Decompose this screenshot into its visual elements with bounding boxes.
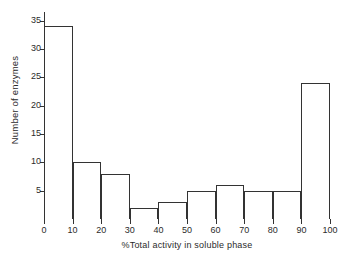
x-tick-label: 70 bbox=[239, 225, 249, 236]
x-tick-label: 50 bbox=[182, 225, 192, 236]
plot-area: 5101520253035 0102030405060708090100 bbox=[44, 12, 330, 219]
x-tick-label: 60 bbox=[211, 225, 221, 236]
y-axis-label: Number of enzymes bbox=[8, 0, 22, 210]
x-tick-mark bbox=[187, 219, 188, 224]
y-tick-label: 30 bbox=[31, 43, 41, 54]
histogram-bar bbox=[158, 202, 187, 219]
x-tick-label: 10 bbox=[68, 225, 78, 236]
y-tick-label: 5 bbox=[36, 185, 41, 196]
x-tick-label: 80 bbox=[268, 225, 278, 236]
y-tick-label: 20 bbox=[31, 100, 41, 111]
x-tick-mark bbox=[44, 219, 45, 224]
histogram-bar bbox=[187, 191, 216, 219]
x-tick-mark bbox=[101, 219, 102, 224]
histogram-bar bbox=[244, 191, 273, 219]
x-tick-mark bbox=[244, 219, 245, 224]
x-tick-label: 100 bbox=[322, 225, 337, 236]
x-tick-mark bbox=[273, 219, 274, 224]
x-tick-mark bbox=[301, 219, 302, 224]
x-tick-label: 20 bbox=[96, 225, 106, 236]
y-tick-label: 35 bbox=[31, 15, 41, 26]
y-tick-label: 25 bbox=[31, 71, 41, 82]
x-tick-mark bbox=[73, 219, 74, 224]
x-tick-label: 30 bbox=[125, 225, 135, 236]
histogram-bar bbox=[101, 174, 130, 219]
histogram-bar bbox=[73, 162, 102, 219]
histogram-bar bbox=[130, 208, 159, 219]
histogram-bar bbox=[301, 83, 330, 219]
y-tick-label: 15 bbox=[31, 128, 41, 139]
x-tick-mark bbox=[158, 219, 159, 224]
x-tick-mark bbox=[130, 219, 131, 224]
x-tick-label: 40 bbox=[153, 225, 163, 236]
x-tick-label: 90 bbox=[296, 225, 306, 236]
histogram-bar bbox=[216, 185, 245, 219]
x-tick-mark bbox=[330, 219, 331, 224]
histogram-bar bbox=[44, 26, 73, 219]
y-tick-label: 10 bbox=[31, 156, 41, 167]
x-tick-label: 0 bbox=[41, 225, 46, 236]
histogram-bar bbox=[273, 191, 302, 219]
x-axis-label: %Total activity in soluble phase bbox=[44, 240, 330, 250]
x-tick-mark bbox=[216, 219, 217, 224]
histogram-figure: Number of enzymes 5101520253035 01020304… bbox=[0, 0, 349, 265]
